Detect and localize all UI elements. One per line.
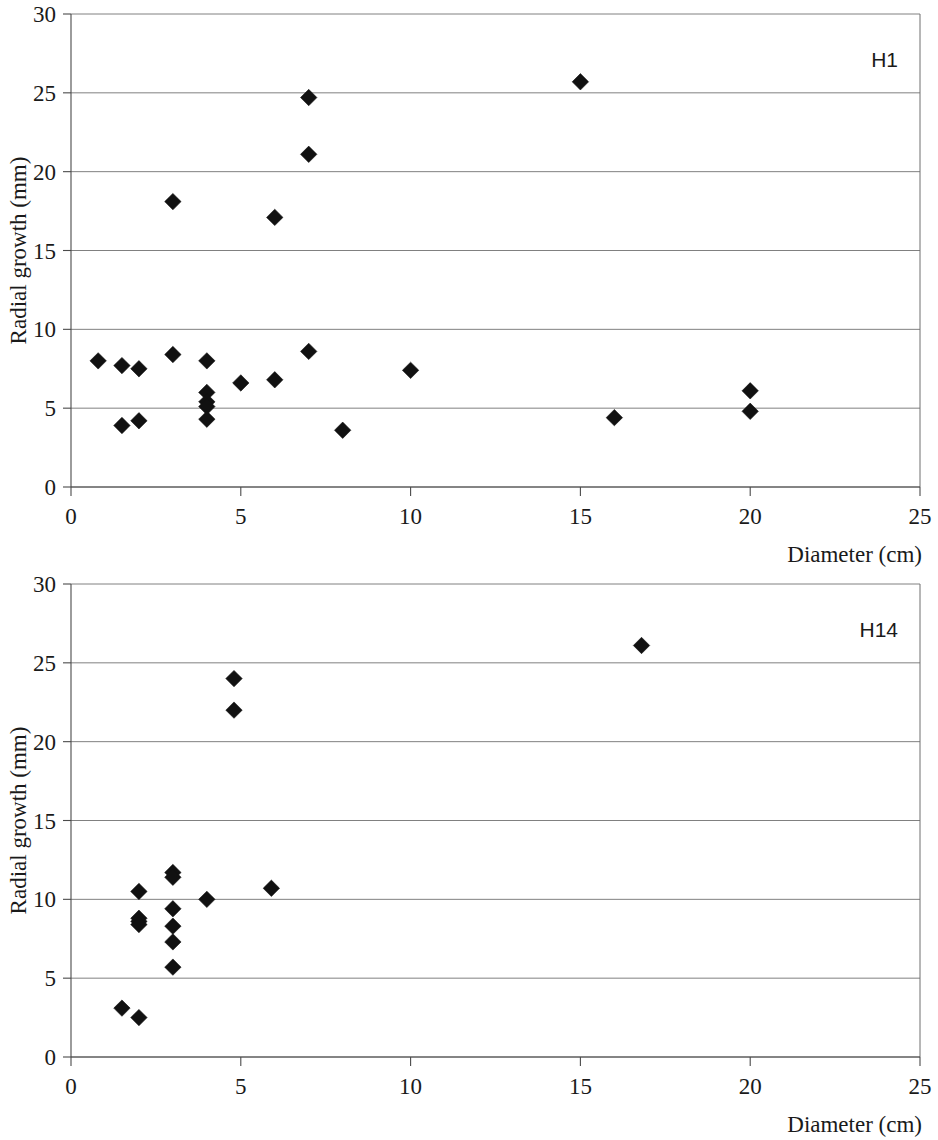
x-tick-label: 25 <box>909 504 932 529</box>
data-point-marker <box>334 422 350 438</box>
x-tick-label: 20 <box>739 1074 762 1099</box>
y-axis-title: Radial growth (mm) <box>6 157 31 345</box>
data-point-marker <box>131 883 147 899</box>
data-point-marker <box>165 959 181 975</box>
y-axis-title: Radial growth (mm) <box>6 727 31 915</box>
data-point-marker <box>226 702 242 718</box>
data-point-marker <box>165 901 181 917</box>
data-point-marker <box>131 1009 147 1025</box>
y-tick-label: 30 <box>33 2 56 27</box>
data-point-marker <box>301 89 317 105</box>
x-tick-label: 25 <box>909 1074 932 1099</box>
y-tick-label: 10 <box>33 317 56 342</box>
x-axis: 0510152025 <box>65 487 931 529</box>
data-point-marker <box>199 411 215 427</box>
figure-page: 0510152025300510152025Radial growth (mm)… <box>0 0 938 1140</box>
data-point-marker <box>131 361 147 377</box>
x-tick-label: 10 <box>399 1074 422 1099</box>
data-point-marker <box>165 934 181 950</box>
series-label: H1 <box>871 48 898 71</box>
data-point-marker <box>267 372 283 388</box>
gridlines <box>71 584 920 1057</box>
y-tick-label: 15 <box>33 239 56 264</box>
data-point-marker <box>199 891 215 907</box>
x-tick-label: 0 <box>65 1074 77 1099</box>
y-tick-label: 5 <box>45 966 57 991</box>
data-point-marker <box>226 670 242 686</box>
x-axis-title: Diameter (cm) <box>787 542 922 567</box>
data-point-marker <box>165 918 181 934</box>
y-tick-label: 25 <box>33 651 56 676</box>
y-axis: 051015202530 <box>33 2 71 500</box>
y-tick-label: 20 <box>33 160 56 185</box>
x-tick-label: 5 <box>235 1074 247 1099</box>
y-tick-label: 20 <box>33 730 56 755</box>
data-point-marker <box>233 375 249 391</box>
data-point-marker <box>131 413 147 429</box>
data-point-marker <box>114 1000 130 1016</box>
series-label: H14 <box>859 618 898 641</box>
data-point-marker <box>301 343 317 359</box>
x-tick-label: 15 <box>569 1074 592 1099</box>
data-point-marker <box>572 74 588 90</box>
data-point-marker <box>301 146 317 162</box>
scatter-plot-h14: 0510152025300510152025Radial growth (mm)… <box>0 570 938 1140</box>
y-tick-label: 15 <box>33 809 56 834</box>
x-tick-label: 0 <box>65 504 77 529</box>
data-point-marker <box>114 357 130 373</box>
y-axis: 051015202530 <box>33 572 71 1070</box>
data-point-marker <box>114 417 130 433</box>
x-axis-title: Diameter (cm) <box>787 1112 922 1137</box>
chart-panel-h14: 0510152025300510152025Radial growth (mm)… <box>0 570 938 1140</box>
data-point-marker <box>633 637 649 653</box>
data-points <box>114 637 650 1025</box>
x-tick-label: 15 <box>569 504 592 529</box>
gridlines <box>71 14 920 487</box>
y-tick-label: 25 <box>33 81 56 106</box>
data-point-marker <box>606 409 622 425</box>
y-tick-label: 0 <box>45 1045 57 1070</box>
data-point-marker <box>402 362 418 378</box>
y-tick-label: 30 <box>33 572 56 597</box>
y-tick-label: 10 <box>33 887 56 912</box>
y-tick-label: 0 <box>45 475 57 500</box>
data-point-marker <box>90 353 106 369</box>
x-axis: 0510152025 <box>65 1057 931 1099</box>
chart-panel-h1: 0510152025300510152025Radial growth (mm)… <box>0 0 938 570</box>
scatter-plot-h1: 0510152025300510152025Radial growth (mm)… <box>0 0 938 570</box>
data-point-marker <box>263 880 279 896</box>
x-tick-label: 5 <box>235 504 247 529</box>
data-point-marker <box>199 353 215 369</box>
data-points <box>90 74 758 439</box>
data-point-marker <box>165 193 181 209</box>
x-tick-label: 20 <box>739 504 762 529</box>
data-point-marker <box>165 346 181 362</box>
x-tick-label: 10 <box>399 504 422 529</box>
y-tick-label: 5 <box>45 396 57 421</box>
data-point-marker <box>267 209 283 225</box>
data-point-marker <box>742 383 758 399</box>
data-point-marker <box>742 403 758 419</box>
